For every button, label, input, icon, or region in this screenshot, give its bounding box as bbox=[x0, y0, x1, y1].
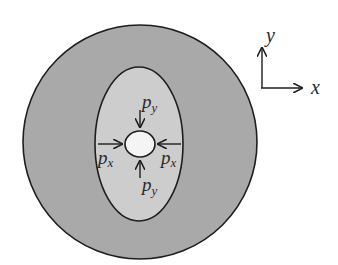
diagram-canvas: py py px px y x bbox=[0, 0, 338, 265]
coordinate-axes: y x bbox=[261, 24, 320, 98]
central-hole bbox=[125, 131, 155, 157]
y-axis-label: y bbox=[264, 24, 275, 47]
x-axis-label: x bbox=[310, 76, 320, 98]
